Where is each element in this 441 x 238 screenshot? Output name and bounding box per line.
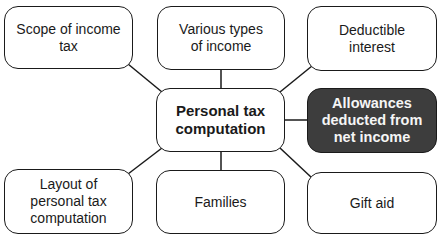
node-label: Various types of income — [174, 21, 268, 55]
node-various-types-of-income: Various types of income — [157, 6, 285, 70]
node-gift-aid: Gift aid — [307, 172, 437, 234]
node-scope-of-income-tax: Scope of income tax — [4, 6, 133, 69]
node-label: Scope of income tax — [11, 21, 126, 55]
center-label: Personal tax computation — [171, 102, 270, 138]
node-label: Layout of personal tax computation — [23, 176, 114, 227]
node-personal-tax-computation: Personal tax computation — [156, 88, 285, 152]
node-layout-of-computation: Layout of personal tax computation — [4, 169, 133, 234]
node-label: Gift aid — [350, 195, 394, 212]
node-families: Families — [156, 170, 285, 234]
node-allowances-deducted: Allowances deducted from net income — [307, 88, 437, 153]
node-label: Allowances deducted from net income — [318, 95, 426, 146]
node-label: Families — [194, 194, 246, 211]
node-deductible-interest: Deductible interest — [307, 6, 437, 71]
node-label: Deductible interest — [330, 22, 414, 56]
